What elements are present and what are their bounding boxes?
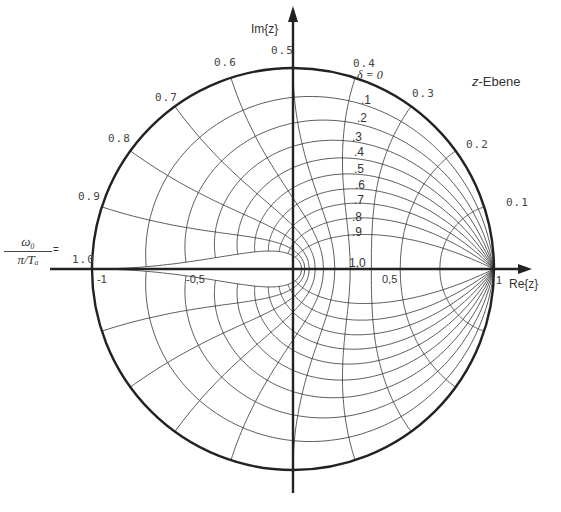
damping-curve	[268, 189, 494, 269]
damping-curve	[214, 269, 494, 398]
x-tick-minus-1: -1	[97, 273, 107, 285]
frequency-label: 0.8	[108, 132, 131, 145]
damping-label: .2	[357, 111, 367, 125]
damping-label: 1,0	[349, 256, 366, 270]
damping-curve	[146, 97, 494, 270]
frequency-curve	[231, 78, 324, 269]
x-axis-label: Re{z}	[509, 277, 538, 291]
damping-label: .4	[354, 145, 364, 159]
damping-label: .5	[354, 162, 364, 176]
plane-title-suffix: -Ebene	[479, 74, 521, 89]
x-tick-1: 1	[496, 274, 502, 286]
frequency-label: 0.1	[506, 196, 529, 209]
damping-label: .3	[352, 130, 362, 144]
y-axis-arrow-icon	[288, 6, 298, 22]
damping-curve	[146, 269, 494, 442]
frequency-label: 0.2	[466, 138, 489, 151]
frequency-curve	[175, 269, 315, 432]
x-axis-arrow-icon	[518, 264, 532, 274]
frequency-label: 0.7	[155, 91, 178, 104]
frequency-curve	[175, 106, 315, 269]
damping-curve	[295, 235, 494, 270]
frequency-label: 0.3	[412, 87, 435, 100]
frequency-label: 0.9	[78, 190, 101, 203]
damping-label: .6	[355, 178, 365, 192]
frequency-curve	[231, 269, 324, 460]
frequency-curve	[343, 269, 356, 460]
freq-label-equals: =	[53, 244, 59, 255]
real-axis	[50, 264, 532, 274]
frequency-label: 0.5	[271, 44, 294, 57]
frequency-curve	[92, 251, 302, 269]
x-tick-minus-0-5: -0,5	[186, 273, 205, 285]
x-tick-0-5: 0,5	[382, 273, 397, 285]
damping-label: .1	[361, 93, 371, 107]
freq-label-fraction: ω₀ π/Tₐ	[4, 234, 52, 268]
damping-label: .9	[352, 225, 362, 239]
frequency-curve	[371, 106, 411, 269]
damping-label-zero: δ = 0	[357, 68, 383, 83]
frequency-curve	[130, 269, 309, 387]
damping-label: .7	[354, 193, 364, 207]
frequency-curve	[130, 151, 309, 269]
freq-numerator: ω₀	[4, 234, 52, 252]
freq-denominator: π/Tₐ	[4, 252, 52, 268]
frequency-label: 1.0	[72, 253, 95, 266]
frequency-label: 0.6	[214, 56, 237, 69]
damping-label: .8	[352, 210, 362, 224]
plane-title: z-Ebene	[472, 74, 520, 89]
frequency-curve	[371, 269, 411, 432]
y-axis-label: Im{z}	[251, 22, 278, 36]
